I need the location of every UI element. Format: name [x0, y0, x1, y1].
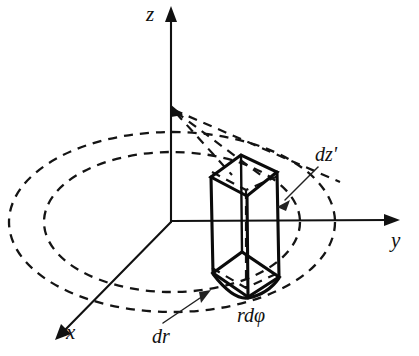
dr-leader-arrow-head: [199, 290, 211, 303]
axis-label-x: x: [66, 322, 75, 343]
axis-label-z: z: [146, 4, 154, 25]
prism-edge-back-right: [277, 172, 279, 277]
axis-label-y: y: [391, 230, 400, 251]
x-axis-line: [64, 222, 171, 331]
diagram-svg: [0, 0, 419, 356]
annotation-label-dz-prime: dz': [315, 144, 337, 164]
prism-edge-back-left: [241, 155, 242, 252]
annotation-label-rdphi: rdφ: [237, 305, 265, 325]
figure-canvas: z y x dz' dr rdφ: [0, 0, 419, 356]
prism-edge-front-left: [211, 177, 213, 273]
prism-edge-front-right: [247, 196, 248, 297]
z-axis-arrow-head: [165, 6, 177, 22]
annotation-label-dr: dr: [152, 326, 170, 346]
dr-leader-line: [163, 296, 203, 323]
guide-dash-lower: [176, 112, 262, 176]
y-axis-arrow-head: [384, 214, 400, 226]
dz-leader-line: [285, 167, 318, 200]
y-axis-line: [171, 220, 390, 221]
